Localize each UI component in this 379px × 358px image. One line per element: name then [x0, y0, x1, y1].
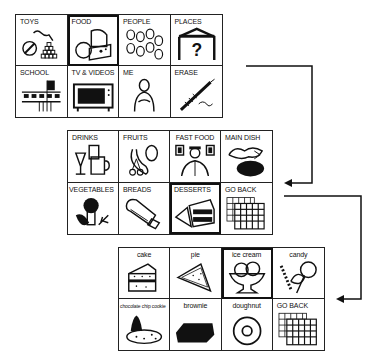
- brownie-icon: [174, 311, 216, 347]
- cell-cake[interactable]: cake: [119, 248, 170, 299]
- cell-label: DESSERTS: [174, 186, 211, 194]
- cell-label: FRUITS: [123, 134, 148, 142]
- erase-icon: [175, 78, 219, 114]
- cell-label: PEOPLE: [123, 18, 150, 26]
- food-icon: [72, 27, 115, 62]
- cell-breads[interactable]: BREADS: [119, 183, 170, 235]
- go-back-icon: [225, 195, 268, 232]
- cake-icon: [123, 260, 165, 295]
- school-icon: [20, 78, 63, 114]
- cell-fruits[interactable]: FRUITS: [119, 131, 170, 183]
- cookie-icon: [123, 311, 165, 347]
- main-category-board: TOYS FOOD PEOPLE PLACES ? SCHOOL TV & VI…: [15, 14, 223, 118]
- cell-go-back[interactable]: GO BACK: [221, 183, 272, 235]
- food-category-board: DRINKS FRUITS FAST FOOD MAIN DISH VEGETA…: [67, 130, 273, 235]
- cell-main-dish[interactable]: MAIN DISH: [221, 131, 272, 183]
- cell-label: BREADS: [123, 186, 151, 194]
- cell-label: brownie: [170, 302, 220, 310]
- cell-label: SCHOOL: [20, 69, 49, 77]
- cell-candy[interactable]: candy: [273, 248, 324, 299]
- cell-people[interactable]: PEOPLE: [119, 15, 171, 66]
- cell-label: ice cream: [222, 251, 272, 259]
- toys-icon: [20, 27, 63, 62]
- candy-icon: [277, 260, 320, 295]
- cell-ice-cream[interactable]: ice cream: [222, 248, 273, 299]
- cell-pie[interactable]: pie: [170, 248, 221, 299]
- cell-label: DRINKS: [72, 134, 98, 142]
- cell-label: FOOD: [72, 18, 92, 26]
- cell-vegetables[interactable]: VEGETABLES: [68, 183, 119, 235]
- cell-label: GO BACK: [277, 302, 308, 310]
- vegetables-icon: [72, 195, 114, 232]
- places-icon: ?: [175, 27, 219, 62]
- cell-label: FAST FOOD: [170, 134, 220, 142]
- cell-me[interactable]: ME: [119, 66, 171, 117]
- cell-places[interactable]: PLACES ?: [171, 15, 223, 66]
- cell-label: MAIN DISH: [225, 134, 260, 142]
- main-dish-icon: [225, 143, 268, 179]
- cell-tv-videos[interactable]: TV & VIDEOS: [68, 66, 120, 117]
- cell-chocolate-chip-cookie[interactable]: chocolate chip cookie: [119, 299, 170, 350]
- cell-erase[interactable]: ERASE: [171, 66, 223, 117]
- cell-label: doughnut: [222, 302, 272, 310]
- desserts-icon: [174, 195, 216, 232]
- cell-label: ME: [123, 69, 133, 77]
- cell-label: cake: [119, 251, 169, 259]
- cell-label: candy: [273, 251, 324, 259]
- cell-brownie[interactable]: brownie: [170, 299, 221, 350]
- cell-school[interactable]: SCHOOL: [16, 66, 68, 117]
- svg-text:?: ?: [191, 40, 202, 60]
- cell-go-back[interactable]: GO BACK: [273, 299, 324, 350]
- people-icon: [123, 27, 166, 62]
- breads-icon: [123, 195, 165, 232]
- fruits-icon: [123, 143, 165, 179]
- cell-drinks[interactable]: DRINKS: [68, 131, 119, 183]
- cell-doughnut[interactable]: doughnut: [222, 299, 273, 350]
- cell-fast-food[interactable]: FAST FOOD: [170, 131, 221, 183]
- cell-label: TOYS: [20, 18, 39, 26]
- desserts-board: cake pie ice cream candy chocolate chip …: [118, 247, 325, 351]
- doughnut-icon: [226, 311, 268, 347]
- cell-label: PLACES: [175, 18, 202, 26]
- cell-toys[interactable]: TOYS: [16, 15, 68, 66]
- me-icon: [123, 78, 166, 114]
- cell-label: TV & VIDEOS: [72, 69, 115, 77]
- cell-label: pie: [170, 251, 220, 259]
- cell-label: chocolate chip cookie: [120, 302, 166, 310]
- tv-icon: [72, 78, 115, 114]
- cell-desserts[interactable]: DESSERTS: [170, 183, 221, 235]
- cell-food[interactable]: FOOD: [68, 15, 120, 66]
- cell-label: ERASE: [175, 69, 198, 77]
- cell-label: VEGETABLES: [69, 186, 114, 194]
- ice-cream-icon: [226, 260, 268, 295]
- drinks-icon: [72, 143, 114, 179]
- go-back-icon: [277, 311, 320, 347]
- pie-icon: [174, 260, 216, 295]
- cell-label: GO BACK: [225, 186, 256, 194]
- fast-food-icon: [174, 143, 216, 179]
